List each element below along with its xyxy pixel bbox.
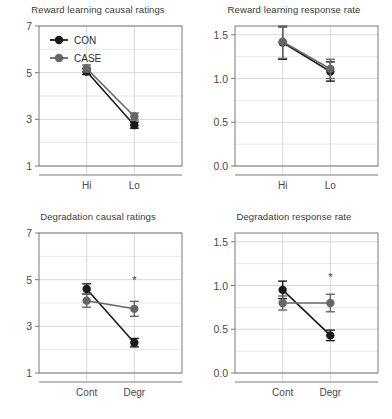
ytick-label: 1.5	[213, 29, 228, 41]
ytick-label: 3	[26, 113, 32, 125]
ytick-label: 1.0	[213, 73, 228, 85]
data-point	[82, 296, 90, 304]
data-point	[130, 338, 138, 346]
ytick-label: 0.5	[213, 323, 228, 335]
plot-border	[235, 26, 378, 166]
chart-panel-bottom-right: Degradation response rate0.00.51.01.5Con…	[196, 211, 392, 419]
series-line	[87, 289, 135, 343]
ytick-label: 0.0	[213, 160, 228, 172]
xtick-label: Degr	[123, 387, 145, 398]
ytick-label: 7	[26, 227, 32, 239]
significance-asterisk: *	[132, 274, 137, 286]
ytick-label: 5	[26, 67, 32, 79]
series-line	[87, 68, 135, 116]
data-point	[82, 285, 90, 293]
ytick-label: 1.5	[213, 236, 228, 248]
series-line	[283, 42, 331, 69]
data-point	[326, 65, 334, 73]
ytick-label: 1	[26, 160, 32, 172]
xtick-label: Lo	[325, 180, 337, 191]
ytick-label: 1	[26, 367, 32, 379]
chart-panel-top-left: Reward learning causal ratings1357HiLoCO…	[0, 4, 196, 209]
plot-area-top-left: 1357HiLoCONCASE	[0, 4, 196, 209]
data-point	[326, 331, 334, 339]
figure-four-panel-chart: Reward learning causal ratings1357HiLoCO…	[0, 0, 392, 419]
ytick-label: 1.0	[213, 280, 228, 292]
legend-label-con: CON	[74, 35, 96, 46]
plot-area-bottom-left: 1357ContDegr*	[0, 211, 196, 419]
data-point	[278, 38, 286, 46]
significance-asterisk: *	[328, 271, 333, 283]
xtick-label: Cont	[272, 387, 293, 398]
data-point	[278, 286, 286, 294]
chart-panel-bottom-left: Degradation causal ratings1357ContDegr*	[0, 211, 196, 419]
legend-label-case: CASE	[74, 53, 102, 64]
data-point	[82, 64, 90, 72]
chart-panel-top-right: Reward learning response rate0.00.51.01.…	[196, 4, 392, 209]
xtick-label: Cont	[76, 387, 97, 398]
series-line	[87, 301, 135, 309]
xtick-label: Degr	[319, 387, 341, 398]
series-con	[82, 284, 139, 347]
xtick-label: Lo	[129, 180, 141, 191]
data-point	[326, 299, 334, 307]
legend-marker-con	[55, 36, 63, 44]
data-point	[130, 305, 138, 313]
series-case	[82, 294, 139, 316]
ytick-label: 3	[26, 320, 32, 332]
series-line	[283, 290, 331, 336]
plot-area-bottom-right: 0.00.51.01.5ContDegr*	[196, 211, 392, 419]
ytick-label: 7	[26, 20, 32, 32]
data-point	[130, 121, 138, 129]
ytick-label: 0.5	[213, 116, 228, 128]
legend-marker-case	[55, 54, 63, 62]
data-point	[130, 112, 138, 120]
series-con	[278, 281, 335, 341]
series-line	[87, 72, 135, 126]
ytick-label: 0.0	[213, 367, 228, 379]
xtick-label: Hi	[278, 180, 287, 191]
ytick-label: 5	[26, 274, 32, 286]
series-case	[278, 294, 335, 312]
data-point	[278, 299, 286, 307]
plot-area-top-right: 0.00.51.01.5HiLo	[196, 4, 392, 209]
xtick-label: Hi	[82, 180, 91, 191]
